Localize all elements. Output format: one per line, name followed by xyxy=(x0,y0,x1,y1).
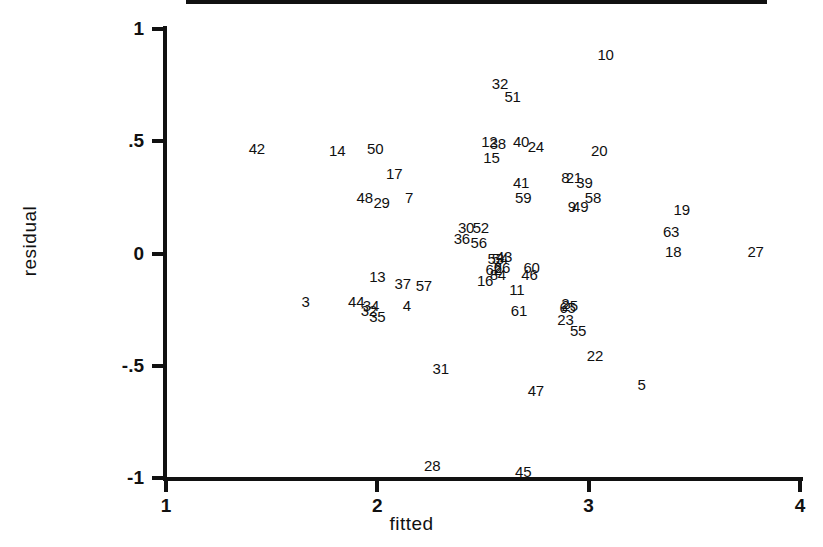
data-point-label: 3 xyxy=(301,293,309,308)
data-point-label: 55 xyxy=(570,322,586,337)
x-axis-line xyxy=(163,477,803,481)
y-tick-mark xyxy=(152,364,163,368)
y-tick-mark xyxy=(152,476,163,480)
y-tick-label: .5 xyxy=(84,131,144,150)
data-point-label: 7 xyxy=(405,190,413,205)
data-point-label: 50 xyxy=(367,140,383,155)
data-point-label: 29 xyxy=(373,194,389,209)
y-tick-label: -.5 xyxy=(84,356,144,375)
data-point-label: 47 xyxy=(528,383,544,398)
data-point-label: 61 xyxy=(511,302,527,317)
data-point-label: 19 xyxy=(673,201,689,216)
x-tick-mark xyxy=(375,481,379,492)
data-point-label: 37 xyxy=(395,275,411,290)
y-axis-line xyxy=(163,26,167,481)
data-point-label: 31 xyxy=(433,360,449,375)
data-point-label: 22 xyxy=(587,347,603,362)
data-point-label: 48 xyxy=(356,190,372,205)
data-point-label: 42 xyxy=(249,140,265,155)
data-point-label: 56 xyxy=(471,235,487,250)
data-point-label: 15 xyxy=(483,149,499,164)
data-point-label: 13 xyxy=(369,268,385,283)
y-tick-label: 1 xyxy=(84,19,144,38)
data-point-label: 39 xyxy=(576,174,592,189)
x-tick-mark xyxy=(587,481,591,492)
y-axis-title: residual xyxy=(19,181,41,301)
data-point-label: 36 xyxy=(454,230,470,245)
data-point-label: 45 xyxy=(515,464,531,479)
data-point-label: 11 xyxy=(509,282,524,297)
y-tick-mark xyxy=(152,139,163,143)
data-point-label: 41 xyxy=(513,174,529,189)
data-point-label: 63 xyxy=(663,224,679,239)
data-point-label: 18 xyxy=(665,244,681,259)
data-point-label: 57 xyxy=(416,277,432,292)
y-tick-mark xyxy=(152,27,163,31)
data-point-label: 16 xyxy=(477,273,493,288)
residual-vs-fitted-scatter-plot: 1.50-.5-1 1234 4214501748297133757344343… xyxy=(0,0,823,547)
data-point-label: 5 xyxy=(637,376,645,391)
data-point-label: 52 xyxy=(473,219,489,234)
data-point-label: 14 xyxy=(329,143,345,158)
data-point-label: 4 xyxy=(403,298,411,313)
data-point-label: 35 xyxy=(369,309,385,324)
data-point-label: 51 xyxy=(504,89,520,104)
x-axis-title: fitted xyxy=(0,513,823,535)
data-point-label: 10 xyxy=(597,46,613,61)
data-point-label: 24 xyxy=(528,138,544,153)
data-point-label: 20 xyxy=(591,143,607,158)
y-tick-label: -1 xyxy=(84,468,144,487)
y-tick-mark xyxy=(152,252,163,256)
data-point-label: 46 xyxy=(521,266,537,281)
data-point-label: 58 xyxy=(585,190,601,205)
data-point-label: 17 xyxy=(386,165,402,180)
data-point-label: 28 xyxy=(424,457,440,472)
x-tick-mark xyxy=(798,481,802,492)
data-point-label: 27 xyxy=(747,244,763,259)
y-tick-label: 0 xyxy=(84,244,144,263)
zero-residual-reference-line xyxy=(186,0,767,4)
x-tick-mark xyxy=(164,481,168,492)
data-point-label: 59 xyxy=(515,190,531,205)
